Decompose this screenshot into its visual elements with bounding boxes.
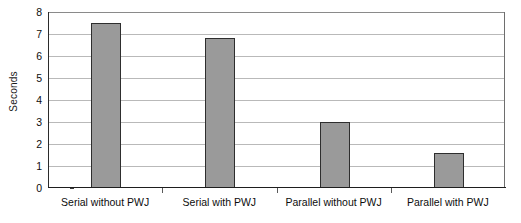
bar (434, 153, 464, 188)
bar (91, 23, 121, 188)
x-axis-category-label: Serial without PWJ (48, 196, 162, 209)
plot-area (48, 12, 505, 188)
y-axis-tick-label: 1 (26, 161, 42, 171)
y-axis-tick-labels: 876543210 (26, 0, 42, 223)
x-axis-tick-mark (162, 188, 163, 193)
y-axis-tick-label: 6 (26, 51, 42, 61)
y-axis-tick-label: 0 (26, 183, 42, 193)
y-axis-title: Seconds (8, 54, 19, 130)
y-axis-tick-label: 3 (26, 117, 42, 127)
bar (320, 122, 350, 188)
x-axis-category-label: Parallel with PWJ (391, 196, 505, 209)
x-axis-tick-mark (277, 188, 278, 193)
y-axis-tick-label: 5 (26, 73, 42, 83)
y-axis-tick-label: 2 (26, 139, 42, 149)
bar (205, 38, 235, 188)
x-axis-tick-mark (391, 188, 392, 193)
gridline (49, 12, 504, 13)
bar-chart: Seconds 876543210 Serial without PWJSeri… (0, 0, 521, 223)
y-axis-tick-mark (70, 188, 74, 189)
x-axis-category-label: Serial with PWJ (162, 196, 276, 209)
y-axis-tick-label: 8 (26, 7, 42, 17)
y-axis-tick-label: 4 (26, 95, 42, 105)
x-axis-category-label: Parallel without PWJ (277, 196, 391, 209)
y-axis-tick-label: 7 (26, 29, 42, 39)
